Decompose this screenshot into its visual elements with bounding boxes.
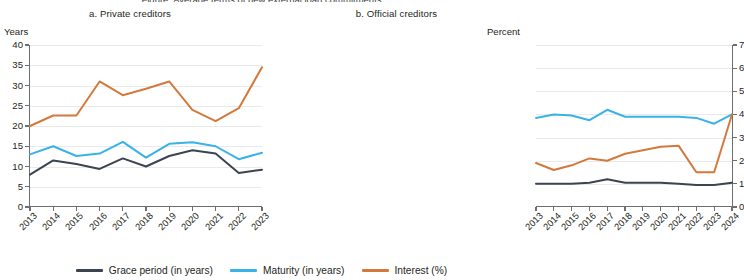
y-axis-label: 5 bbox=[18, 182, 23, 192]
x-axis-label: 2020 bbox=[649, 211, 670, 232]
x-axis-label: 2016 bbox=[88, 211, 109, 232]
x-axis-label: 2018 bbox=[613, 211, 634, 232]
y-axis-label: 25 bbox=[12, 101, 23, 111]
y-axis-tick bbox=[733, 206, 737, 207]
y-axis-tick bbox=[733, 68, 737, 69]
legend-swatch-icon bbox=[76, 269, 103, 272]
series-line-official-maturity-in-years bbox=[536, 110, 732, 124]
legend-label: Grace period (in years) bbox=[109, 265, 213, 276]
series-line-official-grace-period-in-years bbox=[536, 179, 732, 185]
panel-b-y-axis-unit: Percent bbox=[487, 26, 520, 37]
legend-swatch-icon bbox=[362, 269, 389, 272]
x-axis-label: 2021 bbox=[667, 211, 688, 232]
y-axis-label: 20 bbox=[12, 121, 23, 131]
x-axis-tick bbox=[215, 207, 216, 211]
panel-b-title: b. Official creditors bbox=[264, 8, 529, 19]
x-axis-label: 2014 bbox=[41, 211, 62, 232]
legend-item[interactable]: Interest (%) bbox=[362, 265, 448, 276]
y-axis-label: 3 bbox=[739, 133, 744, 143]
x-axis-label: 2020 bbox=[180, 211, 201, 232]
y-axis-tick bbox=[25, 186, 29, 187]
series-line-private-maturity-in-years bbox=[30, 142, 262, 159]
legend-item[interactable]: Grace period (in years) bbox=[76, 265, 213, 276]
y-axis-tick bbox=[25, 85, 29, 86]
y-axis-label: 35 bbox=[12, 60, 23, 70]
y-axis-tick bbox=[733, 114, 737, 115]
x-axis-tick bbox=[571, 207, 572, 211]
series-line-private-grace-period-in-years bbox=[30, 150, 262, 174]
x-axis-label: 2017 bbox=[111, 211, 132, 232]
y-axis-label: 0 bbox=[18, 202, 23, 212]
y-axis-label: 40 bbox=[12, 40, 23, 50]
y-axis-tick bbox=[733, 137, 737, 138]
x-axis-tick bbox=[678, 207, 679, 211]
y-axis-tick bbox=[25, 44, 29, 45]
y-axis-label: 30 bbox=[12, 81, 23, 91]
chart-legend: Grace period (in years)Maturity (in year… bbox=[0, 265, 523, 276]
legend-label: Maturity (in years) bbox=[263, 265, 345, 276]
x-axis-label: 2022 bbox=[684, 211, 705, 232]
series-layer bbox=[30, 45, 262, 207]
y-axis-tick bbox=[733, 160, 737, 161]
y-axis-tick bbox=[733, 183, 737, 184]
y-axis-label: 7 bbox=[739, 40, 744, 50]
x-axis-tick bbox=[99, 207, 100, 211]
y-axis-tick bbox=[25, 125, 29, 126]
panel-a-plot-area: 0510152025303540201320142015201620172018… bbox=[30, 45, 262, 207]
y-axis-label: 10 bbox=[12, 162, 23, 172]
x-axis-tick bbox=[660, 207, 661, 211]
series-layer bbox=[536, 45, 732, 207]
y-axis-label: 2 bbox=[739, 156, 744, 166]
y-axis-tick bbox=[25, 206, 29, 207]
y-axis-label: 4 bbox=[739, 110, 744, 120]
x-axis-label: 2018 bbox=[134, 211, 155, 232]
panel-official-creditors: b. Official creditors Percent 0123456720… bbox=[258, 0, 523, 280]
legend-item[interactable]: Maturity (in years) bbox=[230, 265, 345, 276]
x-axis-label: 2013 bbox=[524, 211, 545, 232]
y-axis-label: 15 bbox=[12, 141, 23, 151]
series-line-official-interest bbox=[536, 114, 732, 172]
panel-b-plot-area: 0123456720132014201520162017201820192020… bbox=[536, 45, 732, 207]
y-axis-tick bbox=[733, 91, 737, 92]
y-axis-label: 0 bbox=[739, 202, 744, 212]
x-axis-label: 2017 bbox=[595, 211, 616, 232]
x-axis-label: 2019 bbox=[157, 211, 178, 232]
y-axis-label: 6 bbox=[739, 63, 744, 73]
y-axis-label: 5 bbox=[739, 86, 744, 96]
y-axis-label: 1 bbox=[739, 179, 744, 189]
y-axis-tick bbox=[25, 166, 29, 167]
x-axis-tick bbox=[238, 207, 239, 211]
y-axis-tick bbox=[25, 65, 29, 66]
x-axis-label: 2019 bbox=[631, 211, 652, 232]
y-axis-tick bbox=[25, 105, 29, 106]
legend-swatch-icon bbox=[230, 269, 257, 272]
legend-label: Interest (%) bbox=[395, 265, 448, 276]
y-axis-tick bbox=[733, 44, 737, 45]
x-axis-label: 2015 bbox=[64, 211, 85, 232]
y-axis-tick bbox=[25, 146, 29, 147]
x-axis-label: 2016 bbox=[578, 211, 599, 232]
x-axis-label: 2023 bbox=[702, 211, 723, 232]
panel-private-creditors: a. Private creditors Years 0510152025303… bbox=[0, 0, 272, 280]
panel-a-title: a. Private creditors bbox=[0, 8, 266, 19]
panel-a-y-axis-unit: Years bbox=[4, 26, 28, 37]
x-axis-label: 2013 bbox=[18, 211, 39, 232]
series-line-private-interest bbox=[30, 67, 262, 126]
x-axis-label: 2024 bbox=[720, 211, 741, 232]
x-axis-tick bbox=[122, 207, 123, 211]
x-axis-label: 2021 bbox=[204, 211, 225, 232]
x-axis-label: 2014 bbox=[542, 211, 563, 232]
x-axis-label: 2022 bbox=[227, 211, 248, 232]
